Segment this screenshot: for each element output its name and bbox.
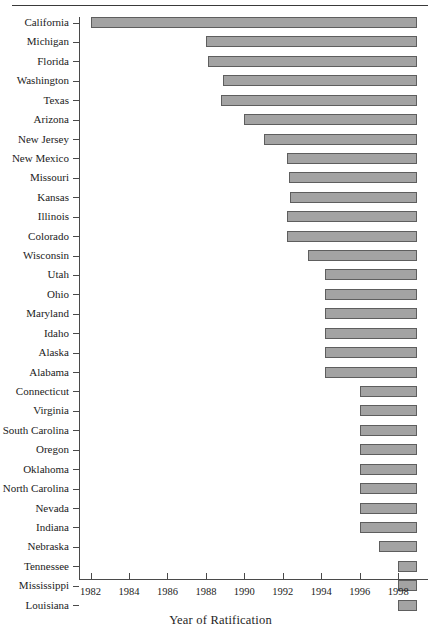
x-axis-label-1986: 1986 — [147, 586, 187, 597]
y-axis-tick — [73, 120, 79, 121]
bar-utah — [325, 269, 417, 280]
bar-tennessee — [398, 561, 417, 572]
bar-nevada — [360, 503, 418, 514]
y-axis-label-ohio: Ohio — [47, 289, 69, 300]
y-axis-tick — [73, 217, 79, 218]
bar-nebraska — [379, 541, 417, 552]
y-axis-label-colorado: Colorado — [28, 231, 69, 242]
bar-alabama — [325, 367, 417, 378]
y-axis-label-virginia: Virginia — [33, 405, 69, 416]
y-axis-tick — [73, 275, 79, 276]
y-axis-label-nevada: Nevada — [35, 503, 69, 514]
y-axis-tick — [73, 411, 79, 412]
y-axis-label-washington: Washington — [17, 75, 69, 86]
y-axis-tick — [73, 294, 79, 295]
bar-louisiana — [398, 600, 417, 611]
y-axis-tick — [73, 430, 79, 431]
bar-oregon — [360, 444, 418, 455]
y-axis-tick — [73, 256, 79, 257]
x-axis-tick — [398, 573, 399, 579]
y-axis-label-wisconsin: Wisconsin — [23, 250, 69, 261]
bar-alaska — [325, 347, 417, 358]
y-axis-label-illinois: Illinois — [38, 211, 69, 222]
y-axis-label-north-carolina: North Carolina — [3, 483, 69, 494]
bar-virginia — [360, 405, 418, 416]
bar-new-jersey — [264, 134, 418, 145]
y-axis-label-tennessee: Tennessee — [24, 561, 69, 572]
y-axis-label-new-jersey: New Jersey — [18, 134, 69, 145]
y-axis-tick — [73, 450, 79, 451]
y-axis-tick — [73, 391, 79, 392]
y-axis-tick — [73, 236, 79, 237]
y-axis-tick — [73, 42, 79, 43]
bar-ohio — [325, 289, 417, 300]
x-axis-label-1994: 1994 — [301, 586, 341, 597]
y-axis-label-michigan: Michigan — [27, 36, 69, 47]
y-axis-tick — [73, 178, 79, 179]
y-axis-tick — [73, 139, 79, 140]
bar-florida — [208, 56, 418, 67]
bar-illinois — [287, 211, 418, 222]
bar-oklahoma — [360, 464, 418, 475]
y-axis-label-alabama: Alabama — [29, 367, 69, 378]
x-axis-tick — [283, 573, 284, 579]
bar-washington — [223, 75, 417, 86]
y-axis-tick — [73, 314, 79, 315]
bar-colorado — [287, 231, 418, 242]
x-axis-label-1990: 1990 — [224, 586, 264, 597]
bar-idaho — [325, 328, 417, 339]
bar-maryland — [325, 308, 417, 319]
y-axis-label-oregon: Oregon — [36, 444, 69, 455]
x-axis-label-1984: 1984 — [109, 586, 149, 597]
x-axis-label-1998: 1998 — [378, 586, 418, 597]
bar-wisconsin — [308, 250, 418, 261]
y-axis-label-indiana: Indiana — [36, 522, 69, 533]
y-axis-tick — [73, 508, 79, 509]
x-axis-line — [79, 579, 428, 580]
x-axis-tick — [321, 573, 322, 579]
bar-north-carolina — [360, 483, 418, 494]
y-axis-label-mississippi: Mississippi — [19, 580, 69, 591]
y-axis-label-new-mexico: New Mexico — [12, 153, 69, 164]
y-axis-tick — [73, 353, 79, 354]
bar-california — [91, 17, 418, 28]
y-axis-label-kansas: Kansas — [37, 192, 69, 203]
y-axis-tick — [73, 197, 79, 198]
bar-kansas — [290, 192, 417, 203]
y-axis-tick — [73, 100, 79, 101]
x-axis-tick — [91, 573, 92, 579]
y-axis-line — [79, 17, 80, 580]
y-axis-label-utah: Utah — [48, 269, 69, 280]
y-axis-label-oklahoma: Oklahoma — [23, 464, 69, 475]
y-axis-tick — [73, 158, 79, 159]
bar-indiana — [360, 522, 418, 533]
y-axis-label-missouri: Missouri — [30, 172, 69, 183]
y-axis-label-idaho: Idaho — [44, 328, 69, 339]
y-axis-tick — [73, 489, 79, 490]
y-axis-label-nebraska: Nebraska — [27, 541, 69, 552]
x-axis-label-1982: 1982 — [71, 586, 111, 597]
y-axis-tick — [73, 547, 79, 548]
y-axis-tick — [73, 566, 79, 567]
x-axis-label-1988: 1988 — [186, 586, 226, 597]
y-axis-label-texas: Texas — [44, 95, 70, 106]
y-axis-tick — [73, 333, 79, 334]
x-axis-tick — [244, 573, 245, 579]
bar-south-carolina — [360, 425, 418, 436]
y-axis-label-florida: Florida — [37, 56, 69, 67]
y-axis-tick — [73, 61, 79, 62]
x-axis-tick — [360, 573, 361, 579]
y-axis-label-arizona: Arizona — [34, 114, 69, 125]
y-axis-tick — [73, 81, 79, 82]
y-axis-label-south-carolina: South Carolina — [3, 425, 69, 436]
x-axis-tick — [167, 573, 168, 579]
x-axis-tick — [206, 573, 207, 579]
y-axis-tick — [73, 372, 79, 373]
y-axis-label-california: California — [24, 17, 69, 28]
x-axis-label-1992: 1992 — [263, 586, 303, 597]
y-axis-tick — [73, 527, 79, 528]
bar-arizona — [244, 114, 417, 125]
bar-texas — [221, 95, 417, 106]
y-axis-tick — [73, 23, 79, 24]
bar-connecticut — [360, 386, 418, 397]
